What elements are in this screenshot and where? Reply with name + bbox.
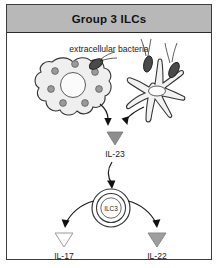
pathway-diagram: extracellular bacteria: [7, 33, 211, 260]
il23-label: IL-23: [105, 149, 125, 159]
dendritic-nucleus: [149, 86, 166, 96]
il23-triangle-icon: [107, 132, 123, 145]
arrow-ilc3-to-il22: [128, 201, 160, 228]
cytokine-il22: IL-22: [147, 233, 167, 260]
arrow-ilc3-to-il17: [62, 201, 94, 228]
cytokine-il23: IL-23: [105, 132, 125, 159]
cytokine-il17: IL-17: [54, 233, 74, 260]
ilc3-label: ILC3: [104, 205, 118, 212]
arrow-il23-to-ilc3: [107, 162, 115, 189]
arrow-macrophage-to-il23: [100, 104, 112, 126]
il17-label: IL-17: [54, 251, 74, 260]
panel-header: Group 3 ILCs: [7, 5, 211, 33]
macrophage-cell: [35, 52, 117, 115]
il22-triangle-icon: [148, 233, 166, 247]
macrophage-nucleus: [61, 73, 86, 98]
ilc3-cell: ILC3: [92, 189, 130, 227]
extracellular-bacteria-label: extracellular bacteria: [69, 44, 149, 54]
figure-frame: Group 3 ILCs extracellular bacteria: [6, 4, 212, 260]
arrow-dendritic-to-il23: [122, 107, 144, 125]
diagram-canvas: extracellular bacteria: [7, 33, 211, 260]
panel-title: Group 3 ILCs: [72, 13, 147, 25]
figure-panel: Group 3 ILCs extracellular bacteria: [0, 0, 219, 268]
il22-label: IL-22: [147, 251, 167, 260]
il17-triangle-icon: [55, 233, 73, 247]
